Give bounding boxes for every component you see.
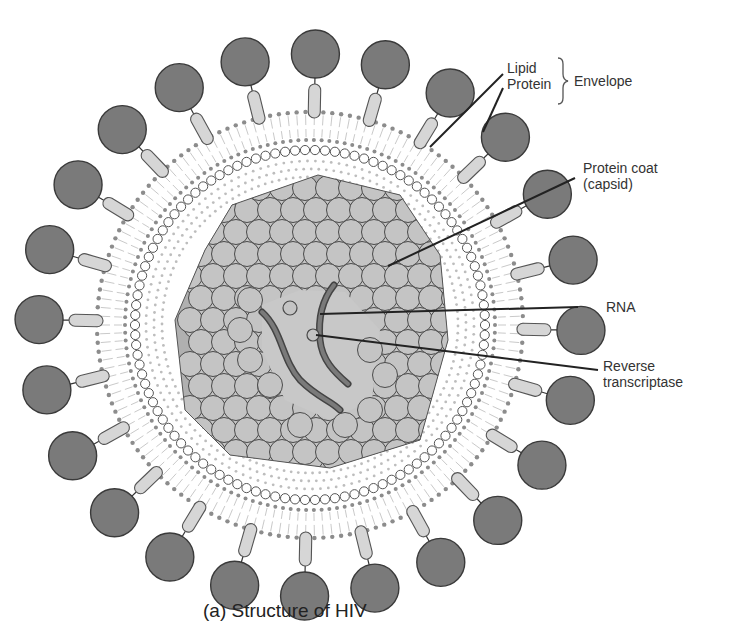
matrix-protein <box>387 475 396 484</box>
lipid-head-outer <box>110 244 114 248</box>
inner-mark <box>177 240 180 243</box>
lipid-tail <box>361 136 363 144</box>
matrix-protein <box>183 446 192 455</box>
transmembrane-stalk <box>455 154 488 186</box>
lipid-head-outer <box>172 159 176 163</box>
surface-knob <box>49 432 97 480</box>
lipid-head-inner <box>190 466 194 470</box>
lipid-tail <box>482 245 489 248</box>
inner-mark <box>145 314 148 317</box>
lipid-head-inner <box>131 376 135 380</box>
matrix-protein <box>170 210 179 219</box>
lipid-head-outer <box>437 492 441 496</box>
lipid-tail <box>424 169 429 175</box>
inner-mark <box>360 462 363 465</box>
inner-mark <box>190 437 193 440</box>
lipid-tail <box>376 501 379 508</box>
lipid-head-inner <box>127 285 131 289</box>
inner-mark <box>156 384 159 387</box>
lipid-head-inner <box>150 419 154 423</box>
inner-mark <box>204 197 207 200</box>
lipid-tail <box>118 364 126 366</box>
lipid-head-outer <box>217 516 221 520</box>
lipid-tail <box>135 209 143 215</box>
matrix-protein <box>137 370 146 379</box>
inner-mark <box>387 459 390 462</box>
inner-mark <box>163 267 166 270</box>
inner-mark <box>460 387 463 390</box>
inner-mark <box>217 188 220 191</box>
lipid-tail <box>271 521 273 531</box>
inner-mark <box>375 183 378 186</box>
inner-mark <box>165 287 168 290</box>
transmembrane-stalk <box>101 195 136 223</box>
inner-mark <box>454 296 457 299</box>
lipid-head-outer <box>268 532 272 536</box>
inner-mark <box>299 176 302 179</box>
matrix-protein <box>176 202 185 211</box>
lipid-tail <box>145 449 153 455</box>
lipid-tail <box>122 268 130 270</box>
lipid-head-outer <box>194 143 198 147</box>
matrix-protein <box>480 320 489 329</box>
lipid-head-inner <box>129 369 133 373</box>
envelope-glycoprotein <box>23 366 111 414</box>
lipid-head-outer <box>96 305 100 309</box>
capsid-sphere <box>189 374 214 399</box>
capsid-sphere <box>316 220 341 245</box>
inner-mark <box>454 353 457 356</box>
lipid-tail <box>103 290 113 292</box>
inner-mark <box>161 308 164 311</box>
inner-mark <box>451 387 454 390</box>
matrix-protein <box>480 310 489 319</box>
inner-mark <box>382 186 385 189</box>
inner-mark <box>454 380 457 383</box>
lipid-head-outer <box>172 487 176 491</box>
lipid-tail <box>118 284 126 286</box>
envelope-glycoprotein <box>507 376 594 424</box>
inner-mark <box>150 283 153 286</box>
matrix-protein <box>404 176 413 185</box>
matrix-protein <box>153 234 162 243</box>
lipid-tail <box>103 358 113 360</box>
matrix-protein <box>300 145 309 154</box>
lipid-tail <box>227 148 230 155</box>
capsid-sphere <box>228 318 253 343</box>
lipid-head-inner <box>154 221 158 225</box>
capsid-sphere <box>339 220 364 245</box>
inner-mark <box>258 176 261 179</box>
inner-mark <box>160 371 163 374</box>
lipid-tail <box>436 465 441 471</box>
matrix-protein <box>434 439 443 448</box>
matrix-protein <box>183 195 192 204</box>
lipid-tail <box>380 128 383 137</box>
matrix-protein <box>404 465 413 474</box>
capsid-sphere <box>339 264 364 289</box>
inner-mark <box>242 465 245 468</box>
label-protein-coat: Protein coat <box>583 160 658 176</box>
lipid-tail <box>116 349 124 350</box>
surface-knob <box>91 489 139 537</box>
envelope-glycoprotein <box>155 64 215 147</box>
inner-mark <box>180 411 183 414</box>
transmembrane-stalk <box>69 314 103 327</box>
lipid-tail <box>361 506 363 514</box>
capsid-sphere <box>449 326 474 351</box>
inner-mark <box>153 319 156 322</box>
lipid-tail <box>485 253 492 256</box>
transmembrane-stalk <box>139 147 171 180</box>
lipid-head-inner <box>173 196 177 200</box>
lipid-head-inner <box>470 234 474 238</box>
capsid-sphere <box>196 194 221 219</box>
inner-mark <box>168 239 171 242</box>
capsid-sphere <box>201 264 226 289</box>
inner-mark <box>257 185 260 188</box>
lipid-tail <box>245 515 248 525</box>
lipid-tail <box>403 139 408 148</box>
matrix-protein <box>130 320 139 329</box>
lipid-tail <box>288 524 289 534</box>
capsid-sphere <box>224 176 249 201</box>
lipid-head-inner <box>150 227 154 231</box>
inner-mark <box>214 458 217 461</box>
lipid-head-inner <box>236 494 240 498</box>
